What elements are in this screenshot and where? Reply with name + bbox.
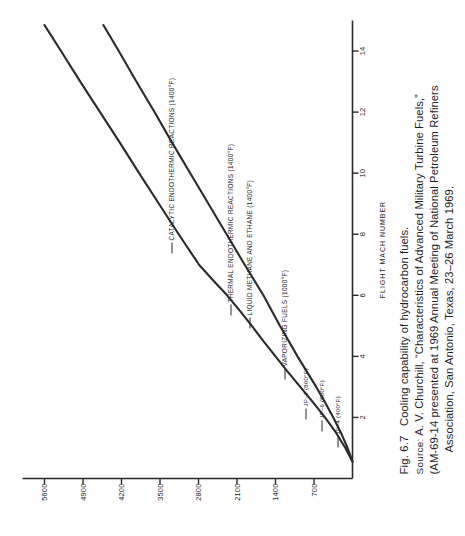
x-tick-label: 14 xyxy=(357,46,366,54)
annotation-jp7: JP–7 (800°F) xyxy=(302,368,308,406)
figure-title: Cooling capability of hydrocarbon fuels. xyxy=(397,226,409,425)
annotation-thermal-endothermic-reactions: THERMAL ENDOTHERMIC REACTIONS (1400°F) xyxy=(227,143,233,302)
x-tick-label: 2 xyxy=(357,415,366,419)
x-tick-label: 4 xyxy=(357,354,366,358)
figure-caption: Fig. 6.7 Cooling capability of hydrocarb… xyxy=(396,22,455,474)
rotated-figure-stage: 700 1400 2100 2800 3500 4200 4900 5600 2… xyxy=(0,0,465,536)
caption-source-line-2: (AM-69-14 presented at 1969 Annual Meeti… xyxy=(426,22,441,474)
figure-page: 700 1400 2100 2800 3500 4200 4900 5600 2… xyxy=(0,0,465,536)
leader-line-jp4 xyxy=(337,436,338,447)
source-label: Source: xyxy=(413,438,424,474)
leader-line-jp7 xyxy=(305,408,306,419)
chart-canvas xyxy=(22,20,352,478)
y-tick-label: 4900 xyxy=(78,478,87,500)
leader-line-catalytic xyxy=(171,242,172,253)
leader-line-vaporizing xyxy=(284,368,285,379)
caption-title-line: Fig. 6.7 Cooling capability of hydrocarb… xyxy=(396,22,411,474)
source-text-2: (AM-69-14 presented at 1969 Annual Meeti… xyxy=(427,85,439,474)
source-text-3: Association, San Antonio, Texas, 23–26 M… xyxy=(442,185,454,452)
caption-source-line-3: Association, San Antonio, Texas, 23–26 M… xyxy=(441,22,456,474)
y-tick-label: 2100 xyxy=(232,478,241,500)
annotation-liquid-methane-and-ethane: LIQUID METHANE AND ETHANE (1400°F) xyxy=(246,179,252,315)
source-text-1: A. V. Churchill, “Characteristics of Adv… xyxy=(412,94,424,436)
annotation-jp4: JP–4 (400°F) xyxy=(334,396,340,434)
y-tick-label: 1400 xyxy=(271,478,280,500)
y-tick-label: 700 xyxy=(309,478,318,496)
x-tick-label: 10 xyxy=(357,168,366,176)
annotation-vaporizing-fuels: VAPORIZING FUELS (1000°F) xyxy=(281,269,287,366)
figure-number: Fig. 6.7 xyxy=(397,435,409,474)
annotation-catalytic-endothermic-reactions: CATALYTIC ENDOTHERMIC REACTIONS (1400°F) xyxy=(168,77,174,240)
annotation-jp6: JP–6 (500°F) xyxy=(318,380,324,418)
leader-line-thermal xyxy=(230,304,231,315)
y-tick-label: 5600 xyxy=(40,478,49,500)
y-tick-label: 4200 xyxy=(117,478,126,500)
x-axis-title: FLIGHT MACH NUMBER xyxy=(378,20,385,478)
plot-area: 700 1400 2100 2800 3500 4200 4900 5600 2… xyxy=(22,20,352,478)
y-tick-label: 3500 xyxy=(155,478,164,500)
leader-line-methane xyxy=(249,317,250,328)
x-tick-label: 6 xyxy=(357,293,366,297)
x-tick-label: 8 xyxy=(357,232,366,236)
leader-line-jp6 xyxy=(321,420,322,431)
y-tick-label: 2800 xyxy=(194,478,203,500)
x-tick-label: 12 xyxy=(357,107,366,115)
caption-source-line-1: Source: A. V. Churchill, “Characteristic… xyxy=(411,22,427,474)
